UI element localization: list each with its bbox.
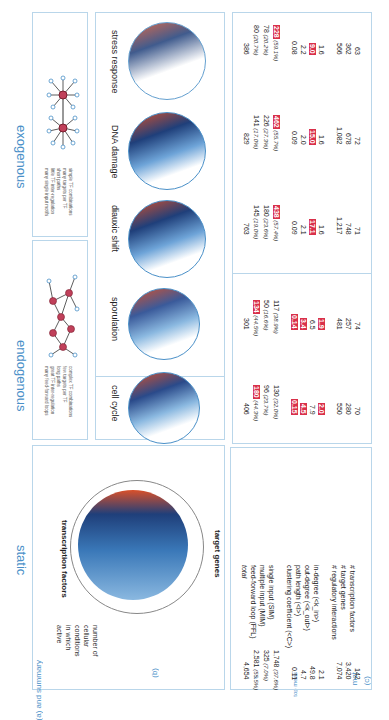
value-column: 742574811.96.53.40.14117 (38.9%)50 (16.6…	[242, 300, 362, 330]
value-cell: 145 (19.0%)	[251, 205, 261, 235]
value-cell: 74	[353, 300, 362, 330]
value-cell: 386	[242, 25, 251, 55]
value-cell: 130 (32.0%)	[271, 385, 281, 415]
value-cell: 71	[353, 205, 362, 235]
value-cell: 2.2	[299, 25, 308, 55]
tg-label: target genes	[200, 530, 222, 578]
value-cell: 3,420	[344, 650, 353, 680]
row-label: # regulatory interactions	[330, 565, 339, 648]
value-cell: 678	[344, 115, 353, 145]
value-cell: 829	[242, 115, 251, 145]
heading-static: static	[14, 545, 29, 575]
value-column: 633625661.69.02.20.08228 (59.1%)78 (20.2…	[242, 25, 362, 55]
value-cell: 15.0	[308, 115, 317, 145]
value-cell: 117 (38.9%)	[271, 300, 281, 330]
value-cell: 362	[344, 25, 353, 55]
value-cell: 1.6	[317, 25, 326, 55]
network-label: stress response	[110, 30, 120, 94]
value-cell: 2.0	[299, 115, 308, 145]
value-cell: 49.8	[308, 650, 317, 680]
value-cell: 1,748 (37.6%)	[271, 650, 281, 680]
network-circle	[128, 112, 206, 190]
value-cell: 748	[344, 205, 353, 235]
value-cell: 63	[353, 25, 362, 55]
network-label: cell cycle	[110, 385, 120, 422]
value-cell: 50 (16.6%)	[261, 300, 271, 330]
heading-exogenous: exogenous	[14, 125, 29, 189]
network-circle	[78, 490, 188, 600]
value-cell: 325 (7.0%)	[261, 650, 271, 680]
label-line: cellular	[82, 625, 91, 657]
label-line: conditions	[73, 625, 82, 657]
value-cell: 0.09	[290, 205, 299, 235]
value-cell: 17.1	[308, 205, 317, 235]
value-cell: 566	[335, 25, 344, 55]
row-label: total	[240, 565, 249, 648]
value-cell: 0.08	[290, 25, 299, 55]
value-cell: 0.09	[290, 115, 299, 145]
label-line: in which	[64, 625, 73, 657]
value-cell: 6.5	[308, 300, 317, 330]
value-cell: 550	[335, 385, 344, 415]
network-circle	[128, 372, 200, 444]
value-cell: 3.4	[299, 300, 308, 330]
value-cell: 134 (44.5%)	[251, 300, 261, 330]
value-cell: 280	[344, 385, 353, 415]
label-line: active	[55, 625, 64, 657]
bullet: many feed-forward loops	[43, 366, 49, 417]
tf-label: transcription factors	[45, 520, 69, 598]
network-label: diauxic shift	[110, 205, 120, 252]
value-cell: 1,082	[335, 115, 344, 145]
bullet: many single input motifs	[43, 168, 49, 216]
value-cell: 80 (20.7%)	[251, 25, 261, 55]
value-cell: 9.0	[308, 25, 317, 55]
bullet: little TF inter-regulation	[49, 168, 55, 216]
value-cell: 2,581 (55.5%)	[251, 650, 261, 680]
value-cell: 142	[353, 650, 362, 680]
value-cell: 7.9	[308, 385, 317, 415]
value-cell: 0.15	[290, 385, 299, 415]
sim-network-icon	[43, 73, 83, 153]
value-column: 717481,2171.617.12.10.09438 (57.4%)180 (…	[242, 205, 362, 235]
value-cell: 257	[344, 300, 353, 330]
heading-endogenous: endogenous	[14, 340, 29, 412]
network-circle	[128, 288, 200, 360]
value-cell: 70	[353, 385, 362, 415]
bullet: great TF inter-regulation	[49, 366, 55, 417]
row-label: # target genes	[339, 565, 348, 648]
value-cell: 4.5	[299, 385, 308, 415]
panel-label-a: (a) and summary	[34, 660, 43, 720]
value-cell: 226 (27.3%)	[261, 115, 271, 145]
value-cell: 301	[242, 300, 251, 330]
value-cell: 1.6	[317, 205, 326, 235]
bullet: complex TF combinations	[67, 366, 73, 417]
value-cell: 462 (55.7%)	[271, 115, 281, 145]
value-cell: 228 (59.1%)	[271, 25, 281, 55]
value-cell: 0.11	[290, 650, 299, 680]
value-cell: 2.1	[299, 205, 308, 235]
value-cell: 0.14	[290, 300, 299, 330]
value-cell: 481	[335, 300, 344, 330]
row-label: out-degree (<k_out>)	[303, 565, 312, 648]
value-cell: 438 (57.4%)	[271, 205, 281, 235]
value-cell: 180 (23.6%)	[261, 205, 271, 235]
network-circle	[128, 200, 206, 278]
network-label: DNA damage	[110, 125, 120, 179]
row-label: multiple input (MIM)	[258, 565, 267, 648]
value-cell: 2.0	[317, 385, 326, 415]
row-label: in-degree (<k_in>)	[312, 565, 321, 648]
panel-label-b: (b)	[150, 668, 159, 678]
bullet: simple TF combinations	[67, 168, 73, 216]
endogenous-bullets: complex TF combinations few targets per …	[43, 366, 73, 417]
exogenous-bullets: simple TF combinations many targets per …	[43, 168, 73, 216]
label-line: number of	[91, 625, 100, 657]
value-cell: 4,654	[242, 650, 251, 680]
value-cell: 78 (20.2%)	[261, 25, 271, 55]
row-label: # transcription factors	[348, 565, 357, 648]
value-cell: 1,217	[335, 205, 344, 235]
summary-panel-exogenous: simple TF combinations many targets per …	[32, 12, 88, 237]
value-cell: 72	[353, 115, 362, 145]
network-label: sporulation	[110, 297, 120, 341]
row-label: clustering coefficient (<C>)	[285, 565, 294, 648]
row-label: single input (SIM)	[267, 565, 276, 648]
